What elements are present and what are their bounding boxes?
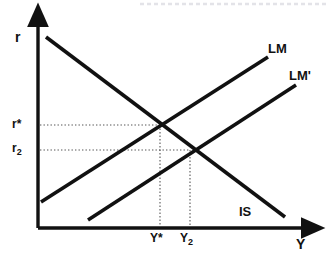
tick-label-y-2-base: Y xyxy=(180,231,188,245)
x-axis-label: Y xyxy=(296,237,305,251)
tick-label-y-2-mark: 2 xyxy=(188,237,193,247)
tick-label-r-2: r2 xyxy=(12,142,22,157)
y-axis-label: r xyxy=(15,30,20,44)
tick-label-r-2-mark: 2 xyxy=(17,147,22,157)
is-curve xyxy=(46,37,285,217)
chart-canvas xyxy=(0,0,327,258)
is-curve-label: IS xyxy=(239,205,251,218)
lm-curve-label: LM xyxy=(268,42,287,55)
tick-label-r-star-mark: * xyxy=(17,117,22,131)
tick-label-y-2: Y2 xyxy=(180,232,193,247)
tick-label-r-star: r* xyxy=(12,118,21,130)
lm-prime-curve-label: LM' xyxy=(289,69,311,82)
tick-label-y-star-base: Y xyxy=(150,231,158,245)
is-lm-figure: r Y LM LM' IS r* r2 Y* Y2 xyxy=(0,0,327,258)
tick-label-y-star: Y* xyxy=(150,232,163,244)
tick-label-y-star-mark: * xyxy=(158,231,163,245)
